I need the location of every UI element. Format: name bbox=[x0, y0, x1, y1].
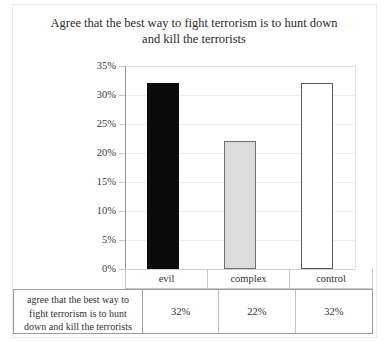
bar-evil bbox=[147, 83, 179, 269]
y-axis-tick-label: 5% bbox=[74, 235, 116, 245]
y-axis-tick-label: 0% bbox=[74, 264, 116, 274]
bar-control bbox=[301, 83, 333, 269]
x-axis-label-complex: complex bbox=[208, 269, 290, 288]
y-axis-tick-label: 25% bbox=[74, 119, 116, 129]
gridline bbox=[125, 66, 355, 67]
plot-right-edge bbox=[355, 66, 356, 269]
y-axis-line bbox=[125, 66, 126, 269]
table-row-header-line-3: down and kill the terrorists bbox=[14, 320, 142, 334]
table-row-header-line-1: agree that the best way to bbox=[14, 293, 142, 307]
y-axis-tick-label: 15% bbox=[74, 177, 116, 187]
table-row-header-line-2: fight terrorism is to hunt bbox=[14, 307, 142, 321]
table-cell-complex: 22% bbox=[219, 290, 295, 333]
y-axis-tick-label: 20% bbox=[74, 148, 116, 158]
x-axis-category-row: evilcomplexcontrol bbox=[125, 269, 373, 289]
table-value-cells: 32%22%32% bbox=[143, 290, 372, 333]
table-cell-evil: 32% bbox=[143, 290, 219, 333]
y-axis-tick-label: 30% bbox=[74, 90, 116, 100]
table-cell-control: 32% bbox=[296, 290, 372, 333]
table-row-header: agree that the best way to fight terrori… bbox=[14, 290, 143, 333]
data-table: agree that the best way to fight terrori… bbox=[13, 289, 373, 334]
bar-complex bbox=[224, 141, 256, 269]
y-axis-tick-label: 10% bbox=[74, 206, 116, 216]
y-axis-tick-label: 35% bbox=[74, 61, 116, 71]
x-axis-label-control: control bbox=[290, 269, 372, 288]
x-axis-label-evil: evil bbox=[126, 269, 208, 288]
